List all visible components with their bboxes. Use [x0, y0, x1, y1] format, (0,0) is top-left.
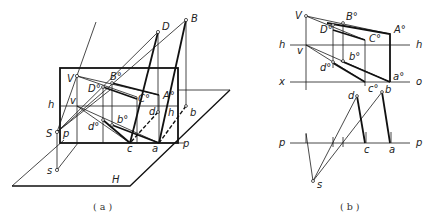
- figure-b: V B° D° C° A° h v b° h d° x a° o c° d b …: [278, 10, 422, 212]
- label-b-b: b: [385, 84, 391, 95]
- label-V: V: [67, 73, 75, 84]
- label-b0: b°: [117, 114, 128, 125]
- label-C0: C°: [138, 93, 150, 104]
- point-b-b: [381, 91, 384, 94]
- label-S: S: [46, 128, 53, 139]
- point-d: [157, 111, 160, 114]
- label-H: H: [112, 174, 120, 185]
- label-B0: B°: [110, 71, 122, 82]
- label-h-right-b: h: [416, 39, 422, 50]
- caption-b: ( b ): [340, 201, 360, 212]
- point-s: [55, 168, 58, 171]
- point-D0: [102, 86, 105, 89]
- point-s-b: [312, 180, 315, 183]
- point-D: [156, 30, 159, 33]
- label-v-b: v: [297, 45, 304, 56]
- label-d-b: d: [348, 90, 355, 101]
- edge-B-a: [159, 20, 186, 143]
- perspective-projection-diagram: D B V B° D° C° A° h v d h b S p d° b° c …: [0, 0, 429, 222]
- edge-d0-c0-b: [333, 63, 365, 82]
- label-C0-b: C°: [369, 33, 381, 44]
- label-D: D: [162, 21, 170, 32]
- label-s: s: [47, 165, 52, 176]
- label-d0: d°: [88, 121, 99, 132]
- label-v: v: [70, 95, 77, 106]
- point-b: [185, 105, 188, 108]
- label-x-b: x: [278, 76, 285, 87]
- label-c: c: [127, 143, 133, 154]
- label-p-left-b: p: [278, 137, 285, 148]
- plan-s-left: [306, 133, 313, 181]
- ground-plane-left-edge: [12, 140, 64, 186]
- label-d0-b: d°: [320, 62, 331, 73]
- point-S: [55, 130, 58, 133]
- label-A0-b: A°: [393, 24, 406, 35]
- label-p-right-b: p: [415, 137, 422, 148]
- label-h-right: h: [168, 107, 174, 118]
- label-s-b: s: [317, 179, 322, 190]
- label-B0-b: B°: [346, 11, 358, 22]
- label-d: d: [149, 106, 156, 117]
- label-p-right: p: [182, 138, 189, 149]
- label-b: b: [190, 107, 196, 118]
- point-B: [184, 18, 187, 21]
- point-B0: [111, 82, 114, 85]
- label-a-b: a: [389, 144, 395, 155]
- figure-a: D B V B° D° C° A° h v d h b S p d° b° c …: [12, 13, 230, 212]
- label-D0: D°: [88, 83, 101, 94]
- label-a: a: [152, 143, 158, 154]
- edge-b-a-b: [382, 92, 390, 143]
- point-V-b: [305, 15, 308, 18]
- label-B: B: [191, 13, 198, 24]
- label-c0-b: c°: [368, 83, 379, 94]
- label-A0: A°: [162, 90, 175, 101]
- point-d-b: [356, 95, 359, 98]
- label-p-left: p: [62, 128, 69, 139]
- caption-a: ( a ): [93, 201, 112, 212]
- label-V-b: V: [295, 10, 303, 21]
- label-h-left-b: h: [279, 39, 285, 50]
- label-b0-b: b°: [349, 51, 360, 62]
- station-foot-line: [57, 143, 78, 170]
- edge-d-c-b: [357, 96, 365, 143]
- edge-D-c: [130, 32, 158, 143]
- point-B0-b: [342, 22, 345, 25]
- edge-D0-C0-b: [333, 30, 365, 40]
- label-D0-b: D°: [320, 24, 333, 35]
- ray-s-d: [313, 96, 357, 181]
- ray-s-b: [313, 92, 382, 181]
- label-o-b: o: [416, 76, 422, 87]
- label-a0-b: a°: [393, 71, 404, 82]
- point-V: [75, 74, 78, 77]
- label-h-left: h: [48, 99, 54, 110]
- point-b0: [111, 124, 114, 127]
- ground-plane-front-edge: [12, 90, 230, 186]
- point-d0: [102, 119, 105, 122]
- point-b0-b: [342, 60, 345, 63]
- label-c-b: c: [364, 144, 370, 155]
- point-d0-b: [332, 61, 335, 64]
